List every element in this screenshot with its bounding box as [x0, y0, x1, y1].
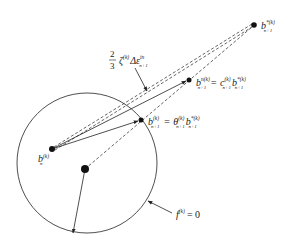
label-increment: 2 3 ζ(k)Δεinn+1 [109, 49, 148, 71]
point-b-n [49, 146, 55, 152]
dashed-lines [54, 24, 252, 169]
label-b-mid: bn(k)n+1=c(k)n+1b*(k)n+1 [196, 76, 246, 90]
arrow-yield-label [148, 201, 172, 213]
svg-text:ζ(k)Δεinn+1: ζ(k)Δεinn+1 [119, 54, 148, 68]
point-b-surface [139, 118, 144, 123]
point-b-star [251, 22, 257, 28]
arrow-bn-to-bmid [52, 81, 186, 149]
arrow-radius [73, 169, 85, 233]
arrow-increment-label [135, 68, 147, 91]
label-b-surface: b(k)n+1=θ(k)n+1b*(k)n+1 [148, 115, 200, 129]
label-yield-function: f(k)= 0 [176, 208, 200, 220]
point-b-mid [187, 78, 192, 83]
point-center [81, 165, 89, 173]
label-b-n: b(k)n [38, 153, 49, 166]
label-b-star: b*(k)n+1 [261, 19, 275, 33]
yield-surface-diagram: b(k)n b*(k)n+1 bn(k)n+1=c(k)n+1b*(k)n+1 … [0, 0, 290, 249]
svg-text:3: 3 [110, 61, 115, 71]
svg-text:2: 2 [110, 49, 115, 59]
